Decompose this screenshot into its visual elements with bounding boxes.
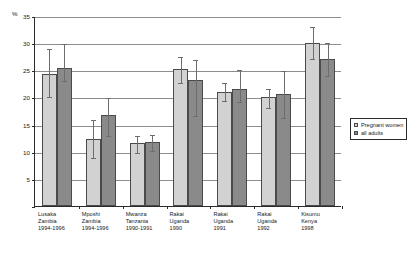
legend-label: Pregnant women: [361, 122, 403, 128]
error-bar: [313, 27, 314, 59]
x-axis-label-line: Mposhi: [82, 211, 109, 218]
x-axis-label-line: Uganda: [170, 218, 190, 225]
error-bar-cap: [62, 44, 67, 45]
x-axis-category-label: LusakaZambia1994-1996: [38, 211, 65, 233]
error-bar-cap: [178, 83, 183, 84]
x-tick-mark: [123, 206, 124, 209]
y-tick-label: 30: [23, 41, 30, 47]
x-axis-label-line: 1994-1996: [38, 225, 65, 232]
legend-item-all-adults: all adults: [354, 130, 403, 136]
error-bar: [284, 71, 285, 118]
x-axis-label-line: Uganda: [213, 218, 233, 225]
error-bar-cap: [91, 158, 96, 159]
x-axis-category-label: RakaiUganda1992: [257, 211, 277, 233]
x-axis-label-line: Zambia: [38, 218, 65, 225]
error-bar: [181, 57, 182, 83]
error-bar: [225, 83, 226, 100]
error-bar-cap: [47, 97, 52, 98]
bar-group: [254, 17, 298, 206]
y-tick-label: 10: [23, 150, 30, 156]
x-axis-label-line: Tanzania: [126, 218, 153, 225]
error-bar: [269, 89, 270, 108]
bar-group: [79, 17, 123, 206]
bar: [217, 92, 232, 206]
legend-swatch-icon: [354, 123, 358, 127]
y-tick-label: 25: [23, 68, 30, 74]
y-axis-unit-label: %: [12, 11, 18, 17]
bar-group: [298, 17, 342, 206]
x-tick-mark: [298, 206, 299, 209]
legend-item-pregnant-women: Pregnant women: [354, 122, 403, 128]
error-bar: [196, 60, 197, 115]
error-bar-cap: [325, 43, 330, 44]
error-bar-cap: [178, 57, 183, 58]
error-bar-cap: [91, 120, 96, 121]
error-bar-cap: [281, 71, 286, 72]
error-bar: [152, 135, 153, 151]
x-axis-label-line: 1998: [301, 225, 320, 232]
error-bar-cap: [150, 151, 155, 152]
error-bar-cap: [266, 108, 271, 109]
bar-group: [210, 17, 254, 206]
x-tick-mark: [254, 206, 255, 209]
x-tick-mark: [210, 206, 211, 209]
bar: [320, 59, 335, 206]
x-axis-category-label: RakaiUganda1990: [170, 211, 190, 233]
y-tick-label: 20: [23, 95, 30, 101]
plot-area: [34, 17, 341, 207]
error-bar-cap: [150, 135, 155, 136]
chart-legend: Pregnant women all adults: [350, 118, 407, 140]
x-axis-label-line: 1990-1991: [126, 225, 153, 232]
x-axis-category-label: MwanzaTanzania1990-1991: [126, 211, 153, 233]
error-bar-cap: [237, 102, 242, 103]
y-tick-label: 5: [27, 177, 30, 183]
bar-group: [167, 17, 211, 206]
x-axis-label-line: Rakai: [170, 211, 190, 218]
error-bar: [137, 136, 138, 152]
x-axis-label-line: Rakai: [257, 211, 277, 218]
y-tick-mark: [32, 207, 35, 208]
x-axis-label-line: 1990: [170, 225, 190, 232]
bar-group: [35, 17, 79, 206]
x-axis-label-line: Kenya: [301, 218, 320, 225]
error-bar-cap: [237, 70, 242, 71]
bar: [57, 68, 72, 206]
bar: [305, 43, 320, 206]
error-bar-cap: [106, 98, 111, 99]
bar-chart: % 5101520253035 LusakaZambia1994-1996Mpo…: [0, 0, 418, 258]
error-bar-cap: [135, 136, 140, 137]
error-bar-cap: [62, 81, 67, 82]
x-tick-mark: [342, 206, 343, 209]
bar-group: [123, 17, 167, 206]
error-bar: [93, 120, 94, 159]
error-bar-cap: [281, 118, 286, 119]
x-axis-category-label: MposhiZambia1994-1996: [82, 211, 109, 233]
error-bar-cap: [193, 60, 198, 61]
error-bar-cap: [106, 136, 111, 137]
x-tick-mark: [79, 206, 80, 209]
x-axis-label-line: 1994-1996: [82, 225, 109, 232]
error-bar: [108, 98, 109, 136]
error-bar: [328, 43, 329, 76]
x-axis-label-line: Rakai: [213, 211, 233, 218]
error-bar-cap: [135, 153, 140, 154]
error-bar-cap: [310, 27, 315, 28]
error-bar-cap: [266, 89, 271, 90]
error-bar-cap: [193, 116, 198, 117]
bar: [232, 89, 247, 206]
x-axis-label-line: Lusaka: [38, 211, 65, 218]
error-bar-cap: [222, 101, 227, 102]
x-axis-label-line: Mwanza: [126, 211, 153, 218]
error-bar-cap: [222, 83, 227, 84]
legend-swatch-icon: [354, 131, 358, 135]
error-bar: [240, 70, 241, 101]
y-tick-label: 35: [23, 14, 30, 20]
x-axis-label-line: Zambia: [82, 218, 109, 225]
error-bar-cap: [325, 76, 330, 77]
error-bar-cap: [47, 49, 52, 50]
x-axis-label-line: Kisumu: [301, 211, 320, 218]
x-axis-label-line: 1991: [213, 225, 233, 232]
x-axis-category-label: RakaiUganda1991: [213, 211, 233, 233]
error-bar-cap: [310, 59, 315, 60]
x-axis-label-line: 1992: [257, 225, 277, 232]
